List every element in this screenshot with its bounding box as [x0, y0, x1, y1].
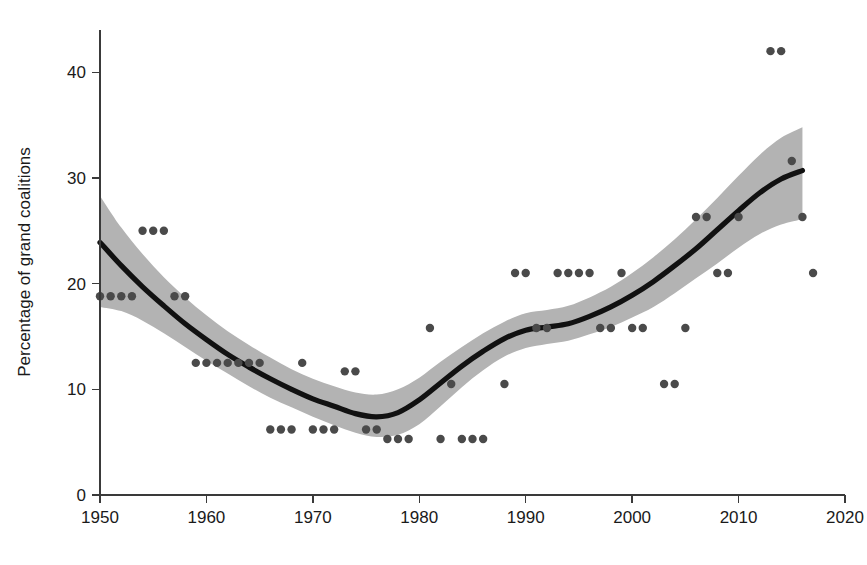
data-point	[234, 359, 242, 367]
data-point	[202, 359, 210, 367]
data-point	[128, 292, 136, 300]
data-point	[777, 47, 785, 55]
axes-group	[100, 30, 845, 495]
data-point	[458, 435, 466, 443]
x-axis-tick-label: 1950	[81, 508, 119, 527]
data-point	[596, 324, 604, 332]
x-axis-tick-label: 2000	[613, 508, 651, 527]
data-point	[500, 380, 508, 388]
data-point	[362, 425, 370, 433]
data-point	[394, 435, 402, 443]
data-point	[404, 435, 412, 443]
data-point	[553, 269, 561, 277]
y-axis-ticks: 010203040	[67, 63, 100, 505]
x-axis-tick-label: 1970	[294, 508, 332, 527]
confidence-band-group	[100, 127, 802, 437]
y-axis-title: Percentage of grand coalitions	[15, 147, 34, 377]
data-point	[702, 213, 710, 221]
data-point	[564, 269, 572, 277]
x-axis-ticks: 19501960197019801990200020102020	[81, 495, 864, 527]
data-point	[607, 324, 615, 332]
data-point	[713, 269, 721, 277]
data-point	[213, 359, 221, 367]
data-point	[671, 380, 679, 388]
data-point	[809, 269, 817, 277]
data-point	[681, 324, 689, 332]
data-point	[639, 324, 647, 332]
data-point	[330, 425, 338, 433]
data-point	[138, 227, 146, 235]
chart-figure: 010203040 195019601970198019902000201020…	[0, 0, 867, 565]
y-axis-tick-label: 10	[67, 380, 86, 399]
data-point	[341, 367, 349, 375]
y-axis-tick-label: 30	[67, 169, 86, 188]
data-point	[266, 425, 274, 433]
data-point	[617, 269, 625, 277]
data-point	[181, 292, 189, 300]
data-point	[117, 292, 125, 300]
data-point	[255, 359, 263, 367]
data-point	[287, 425, 295, 433]
data-point	[543, 324, 551, 332]
x-axis-tick-label: 2010	[720, 508, 758, 527]
x-axis-tick-label: 1990	[507, 508, 545, 527]
data-point	[479, 435, 487, 443]
data-point	[436, 435, 444, 443]
data-point	[798, 213, 806, 221]
data-point	[383, 435, 391, 443]
data-point	[788, 157, 796, 165]
data-point	[277, 425, 285, 433]
y-axis-tick-label: 20	[67, 275, 86, 294]
data-point	[309, 425, 317, 433]
data-point	[351, 367, 359, 375]
data-point	[511, 269, 519, 277]
data-point	[692, 213, 700, 221]
data-point	[628, 324, 636, 332]
data-point	[468, 435, 476, 443]
y-axis-tick-label: 40	[67, 63, 86, 82]
data-point	[192, 359, 200, 367]
x-axis-tick-label: 1980	[400, 508, 438, 527]
data-point	[373, 425, 381, 433]
data-point	[532, 324, 540, 332]
data-point	[585, 269, 593, 277]
data-point	[224, 359, 232, 367]
data-point	[245, 359, 253, 367]
scatter-plot-with-trend: 010203040 195019601970198019902000201020…	[0, 0, 867, 565]
data-point	[447, 380, 455, 388]
y-axis-tick-label: 0	[77, 486, 86, 505]
data-point	[724, 269, 732, 277]
data-point	[319, 425, 327, 433]
data-point	[298, 359, 306, 367]
x-axis-tick-label: 2020	[826, 508, 864, 527]
data-point	[734, 213, 742, 221]
data-point	[149, 227, 157, 235]
x-axis-tick-label: 1960	[188, 508, 226, 527]
data-point	[170, 292, 178, 300]
data-point	[106, 292, 114, 300]
data-point	[575, 269, 583, 277]
data-point	[660, 380, 668, 388]
data-point	[426, 324, 434, 332]
confidence-interval-band	[100, 127, 802, 437]
data-point	[766, 47, 774, 55]
data-point	[522, 269, 530, 277]
data-point	[160, 227, 168, 235]
